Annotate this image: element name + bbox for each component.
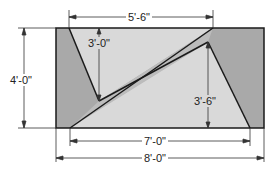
arrow-icon (69, 15, 76, 19)
panel-drawing (0, 0, 277, 173)
arrow-icon (243, 139, 250, 143)
dim-label-left-height: 4'-0" (8, 74, 34, 86)
arrow-icon (206, 15, 213, 19)
arrow-icon (22, 28, 26, 35)
arrow-icon (70, 139, 77, 143)
dim-label-bottom-total-width: 8'-0" (142, 152, 168, 164)
arrow-icon (56, 156, 63, 160)
dim-label-inner-right-height: 3'-6" (192, 95, 218, 107)
dim-label-bottom-inner-width: 7'-0" (142, 135, 168, 147)
arrow-icon (257, 156, 264, 160)
dim-label-inner-left-height: 3'-0" (86, 37, 112, 49)
dim-label-top-width: 5'-6" (126, 11, 152, 23)
arrow-icon (22, 121, 26, 128)
